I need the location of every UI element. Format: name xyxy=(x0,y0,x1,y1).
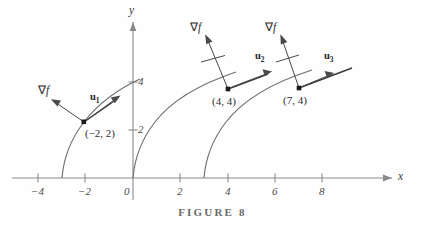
figure-graphics xyxy=(0,0,425,232)
gradient-label-2: ∇f xyxy=(190,22,201,34)
x-tick-label-neg4: −4 xyxy=(31,186,44,197)
level-curve-middle xyxy=(133,72,236,178)
vector-label-u1: u1 xyxy=(90,92,100,103)
point-label-2: (4, 4) xyxy=(212,96,236,107)
annotation-point-2 xyxy=(201,34,268,91)
x-tick-label-2: 2 xyxy=(177,186,183,197)
x-axis xyxy=(12,175,392,182)
gradient-label-1: ∇f xyxy=(38,85,49,97)
x-tick-label-4: 4 xyxy=(225,186,231,197)
point-marker-2 xyxy=(226,87,231,92)
y-tick-label-2: 2 xyxy=(138,124,144,135)
y-axis-label: y xyxy=(129,5,134,17)
vector-label-u2: u2 xyxy=(255,51,265,62)
vector-u3-arrow xyxy=(301,71,334,87)
figure-container: −4 −2 0 2 4 6 8 2 4 x y ∇f ∇f ∇f u1 u2 u… xyxy=(0,0,425,232)
point-marker-1 xyxy=(82,120,87,125)
x-tick-label-8: 8 xyxy=(319,186,325,197)
point-marker-3 xyxy=(297,86,302,91)
point-label-3: (7, 4) xyxy=(283,95,307,106)
x-tick-label-neg2: −2 xyxy=(78,186,91,197)
gradient-label-3: ∇f xyxy=(265,22,276,34)
figure-caption: FIGURE 8 xyxy=(0,206,425,218)
vector-u2-arrow xyxy=(232,69,272,87)
level-curve-right xyxy=(204,70,312,178)
annotation-point-1 xyxy=(51,95,121,124)
x-tick-label-6: 6 xyxy=(272,186,278,197)
x-tick-label-0: 0 xyxy=(124,186,130,197)
point-label-1: (−2, 2) xyxy=(85,128,115,139)
x-axis-label: x xyxy=(398,171,403,183)
y-tick-label-4: 4 xyxy=(138,76,144,87)
vector-label-u3: u3 xyxy=(324,51,334,62)
